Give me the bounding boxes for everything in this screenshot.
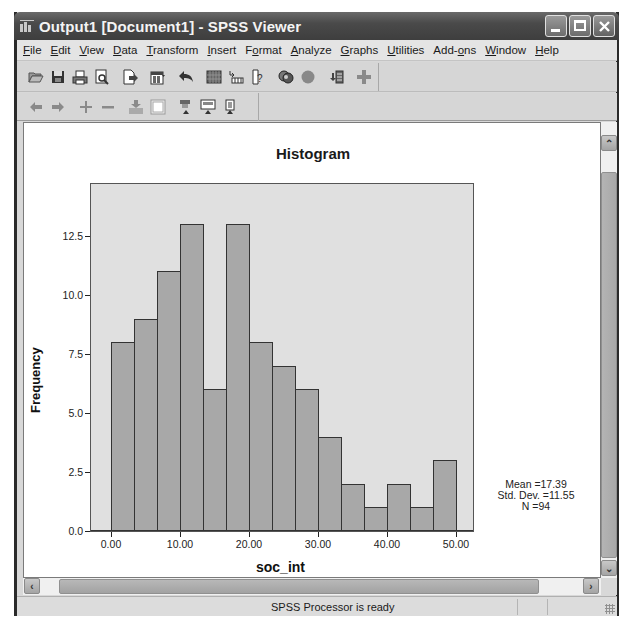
open-icon — [28, 70, 44, 84]
minimize-button[interactable] — [545, 15, 567, 37]
svg-text:?: ? — [257, 73, 263, 84]
hide-icon — [150, 99, 166, 115]
menu-window[interactable]: Window — [481, 44, 531, 56]
designate-window-button[interactable] — [325, 66, 347, 88]
main-toolbar: ? — [17, 62, 617, 92]
insert-text-icon — [223, 99, 237, 115]
output-content-pane[interactable]: Histogram Frequency 0.02.55.07.510.012.5… — [23, 122, 601, 578]
y-tick — [85, 413, 90, 414]
menu-edit[interactable]: Edit — [47, 44, 76, 56]
x-tick-label: 50.00 — [436, 538, 476, 550]
menu-format[interactable]: Format — [241, 44, 286, 56]
x-tick-label: 40.00 — [367, 538, 407, 550]
y-tick — [85, 354, 90, 355]
histogram-bar — [364, 507, 388, 531]
print-icon — [72, 70, 88, 85]
histogram-bar — [341, 484, 365, 531]
help-icon: ? — [251, 69, 265, 85]
scroll-left-button[interactable]: ‹ — [24, 578, 40, 594]
y-tick — [85, 531, 90, 532]
add-icon — [356, 69, 372, 85]
menu-add-ons[interactable]: Add-ons — [429, 44, 481, 56]
select-cases-button[interactable] — [275, 66, 297, 88]
menu-view[interactable]: View — [75, 44, 109, 56]
menu-help[interactable]: Help — [531, 44, 564, 56]
y-tick — [85, 472, 90, 473]
close-button[interactable] — [593, 15, 615, 37]
histogram-bar — [203, 389, 227, 531]
menu-graphs[interactable]: Graphs — [337, 44, 384, 56]
export-icon — [123, 69, 138, 85]
histogram-bar — [410, 507, 434, 531]
status-cell — [517, 599, 547, 615]
demote-icon — [52, 102, 64, 112]
histogram-bar — [387, 484, 411, 531]
menu-transform[interactable]: Transform — [142, 44, 203, 56]
maximize-button[interactable] — [569, 15, 591, 37]
histogram-plot-area[interactable] — [90, 183, 474, 532]
print-preview-button[interactable] — [91, 66, 113, 88]
y-tick-label: 5.0 — [43, 407, 83, 419]
promote-button[interactable] — [25, 96, 47, 118]
n-value: N =94 — [486, 501, 586, 512]
select-cases-icon — [278, 69, 294, 85]
export-button[interactable] — [119, 66, 141, 88]
x-tick-label: 30.00 — [298, 538, 338, 550]
insert-text-button[interactable] — [219, 96, 241, 118]
chevron-right-icon: › — [589, 581, 592, 592]
histogram-bar — [318, 437, 342, 531]
undo-icon — [178, 70, 194, 84]
save-button[interactable] — [47, 66, 69, 88]
chevron-down-icon: ⌄ — [605, 563, 613, 574]
insert-heading-button[interactable] — [175, 96, 197, 118]
goto-data-icon — [206, 70, 222, 84]
collapse-button[interactable] — [97, 96, 119, 118]
spss-app-icon — [20, 20, 34, 32]
vertical-scrollbar[interactable]: ⌃ ⌄ — [601, 122, 617, 578]
title-bar[interactable]: Output1 [Document1] - SPSS Viewer — [14, 12, 619, 40]
designate-window-icon — [328, 69, 344, 85]
menu-bar: File Edit View Data Transform Insert For… — [17, 40, 617, 61]
x-axis-baseline — [91, 530, 473, 531]
menu-analyze[interactable]: Analyze — [287, 44, 337, 56]
status-cell — [547, 599, 602, 615]
insert-title-button[interactable] — [197, 96, 219, 118]
menu-file[interactable]: File — [19, 44, 47, 56]
undo-button[interactable] — [175, 66, 197, 88]
show-button[interactable] — [125, 96, 147, 118]
goto-data-button[interactable] — [203, 66, 225, 88]
variables-button[interactable] — [225, 66, 247, 88]
scroll-up-button[interactable]: ⌃ — [601, 135, 617, 151]
y-tick-label: 12.5 — [43, 230, 83, 242]
x-tick-label: 20.00 — [229, 538, 269, 550]
x-tick — [111, 532, 112, 537]
scroll-right-button[interactable]: › — [583, 578, 599, 594]
open-button[interactable] — [25, 66, 47, 88]
histogram-bar — [249, 342, 273, 531]
dialog-recall-icon — [150, 70, 166, 85]
vertical-scroll-thumb[interactable] — [601, 172, 617, 558]
hide-button[interactable] — [147, 96, 169, 118]
x-tick — [318, 532, 319, 537]
spss-viewer-window: Output1 [Document1] - SPSS Viewer File E… — [14, 12, 619, 616]
y-tick-label: 7.5 — [43, 348, 83, 360]
print-button[interactable] — [69, 66, 91, 88]
value-labels-button[interactable] — [297, 66, 319, 88]
x-axis-label: soc_int — [256, 559, 305, 575]
horizontal-scrollbar[interactable]: ‹ › — [23, 578, 601, 595]
scroll-down-button[interactable]: ⌄ — [601, 560, 617, 576]
demote-button[interactable] — [47, 96, 69, 118]
variable-info-button[interactable]: ? — [247, 66, 269, 88]
menu-data[interactable]: Data — [109, 44, 142, 56]
menu-utilities[interactable]: Utilities — [383, 44, 429, 56]
value-labels-icon — [300, 69, 316, 85]
menu-insert[interactable]: Insert — [203, 44, 241, 56]
horizontal-scroll-thumb[interactable] — [59, 579, 539, 594]
histogram-bar — [180, 224, 204, 531]
y-tick — [85, 295, 90, 296]
add-button[interactable] — [353, 66, 375, 88]
histogram-bar — [111, 342, 135, 531]
expand-button[interactable] — [75, 96, 97, 118]
dialog-recall-button[interactable] — [147, 66, 169, 88]
resize-grip-icon[interactable] — [605, 604, 615, 614]
